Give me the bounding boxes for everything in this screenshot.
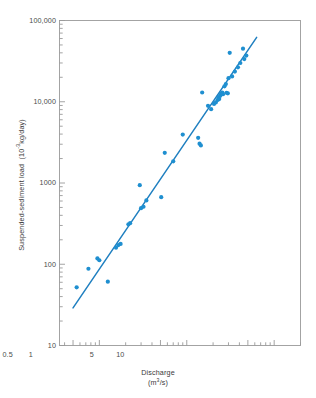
data-point: [199, 143, 203, 147]
y-axis-title-units: (10-3kg/day): [17, 119, 26, 162]
chart-background: [0, 0, 316, 398]
data-point: [209, 107, 213, 111]
x-tick-label: 10: [116, 350, 124, 359]
data-point: [242, 57, 246, 61]
data-point: [163, 151, 167, 155]
x-tick-label: 5: [90, 350, 94, 359]
y-axis-title: Suspended-sediment load (10-3kg/day): [14, 80, 28, 290]
data-point: [141, 205, 145, 209]
data-point: [236, 65, 240, 69]
data-point: [230, 74, 234, 78]
data-point: [119, 242, 123, 246]
data-point: [97, 258, 101, 262]
y-tick-label: 10,000: [33, 97, 56, 106]
data-point: [244, 53, 248, 57]
data-point: [86, 267, 90, 271]
data-point: [106, 280, 110, 284]
x-tick-label: 0.5: [2, 350, 12, 359]
data-point: [196, 136, 200, 140]
data-point: [238, 61, 242, 65]
data-point: [128, 221, 132, 225]
data-point: [228, 51, 232, 55]
data-point: [241, 47, 245, 51]
y-tick-label: 100,000: [29, 16, 56, 25]
data-point: [144, 198, 148, 202]
data-point: [233, 70, 237, 74]
data-point: [159, 195, 163, 199]
x-axis-title-units: (m3/s): [0, 378, 316, 388]
scatter-chart: [0, 0, 316, 398]
data-point: [171, 159, 175, 163]
data-point: [200, 90, 204, 94]
data-point: [181, 132, 185, 136]
y-axis-title-text: Suspended-sediment load (10-3kg/day): [17, 119, 26, 251]
y-tick-label: 10: [48, 341, 56, 350]
data-point: [226, 76, 230, 80]
y-axis-title-main: Suspended-sediment load: [17, 164, 26, 251]
data-point: [206, 104, 210, 108]
data-point: [224, 82, 228, 86]
x-axis-title: Discharge (m3/s): [0, 368, 316, 387]
data-point: [75, 285, 79, 289]
y-tick-label: 100: [44, 260, 56, 269]
data-point: [226, 91, 230, 95]
data-point: [138, 183, 142, 187]
y-tick-label: 1000: [40, 178, 56, 187]
y-units-exponent: -3: [15, 144, 21, 149]
x-tick-label: 1: [29, 350, 33, 359]
